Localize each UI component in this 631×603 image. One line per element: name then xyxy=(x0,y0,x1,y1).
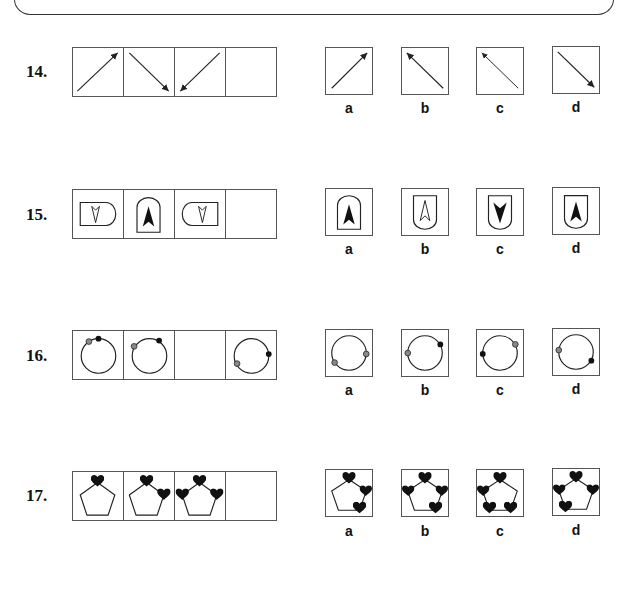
sequence-cell xyxy=(73,472,124,520)
arrow-down-right-icon xyxy=(553,47,599,93)
question-number: 17. xyxy=(26,486,47,506)
pentagon-hearts-icon xyxy=(326,470,372,516)
option-14-b[interactable] xyxy=(401,47,449,95)
option-15-b[interactable] xyxy=(401,188,449,236)
option-15-a[interactable] xyxy=(325,188,373,236)
shield-filled-arrow-up-icon xyxy=(124,190,174,238)
question-17-sequence xyxy=(72,471,277,521)
option-label: a xyxy=(325,241,373,257)
option-17-a[interactable] xyxy=(325,469,373,517)
circle-dots-icon xyxy=(477,330,523,376)
option-17-d[interactable] xyxy=(552,468,600,516)
answer-blank-cell[interactable] xyxy=(175,331,226,379)
option-label: d xyxy=(552,381,600,397)
option-label: a xyxy=(325,100,373,116)
circle-dots-icon xyxy=(124,331,174,379)
sequence-cell xyxy=(124,190,175,238)
pentagon-hearts-icon xyxy=(477,470,523,516)
sequence-cell xyxy=(73,331,124,379)
pentagon-hearts-icon xyxy=(553,469,599,515)
question-15-sequence xyxy=(72,189,277,239)
option-label: b xyxy=(401,241,449,257)
sequence-cell xyxy=(175,472,226,520)
option-label: a xyxy=(325,523,373,539)
option-label: d xyxy=(552,240,600,256)
option-label: d xyxy=(552,522,600,538)
pentagon-hearts-icon xyxy=(73,472,123,520)
option-label: c xyxy=(476,241,524,257)
shield-filled-arrow-down-icon xyxy=(477,189,523,235)
question-number: 16. xyxy=(26,346,47,366)
option-label: b xyxy=(401,100,449,116)
sequence-cell xyxy=(73,190,124,238)
option-17-c[interactable] xyxy=(476,469,524,517)
circle-dots-icon xyxy=(73,331,123,379)
arrow-down-right-icon xyxy=(124,48,174,96)
question-16-sequence xyxy=(72,330,277,380)
answer-blank-cell[interactable] xyxy=(226,472,276,520)
circle-dots-icon xyxy=(402,330,448,376)
circle-dots-icon xyxy=(226,331,276,379)
option-15-c[interactable] xyxy=(476,188,524,236)
circle-dots-icon xyxy=(553,329,599,375)
pentagon-hearts-icon xyxy=(402,470,448,516)
option-label: d xyxy=(552,99,600,115)
option-14-d[interactable] xyxy=(552,46,600,94)
arrow-down-left-icon xyxy=(175,48,225,96)
sequence-cell xyxy=(124,48,175,96)
question-number: 15. xyxy=(26,205,47,225)
arrow-up-left-icon xyxy=(477,48,523,94)
option-16-d[interactable] xyxy=(552,328,600,376)
header-frame xyxy=(14,0,614,15)
arrow-up-right-icon xyxy=(73,48,123,96)
sequence-cell xyxy=(175,48,226,96)
option-17-b[interactable] xyxy=(401,469,449,517)
arrow-up-right-icon xyxy=(326,48,372,94)
arrow-up-left-icon xyxy=(402,48,448,94)
option-16-b[interactable] xyxy=(401,329,449,377)
shield-outline-arrow-up-icon xyxy=(402,189,448,235)
circle-dots-icon xyxy=(326,330,372,376)
option-label: c xyxy=(476,523,524,539)
option-16-a[interactable] xyxy=(325,329,373,377)
shield-outline-arrow-down-icon xyxy=(175,190,225,238)
pentagon-hearts-icon xyxy=(124,472,174,520)
question-number: 14. xyxy=(26,62,47,82)
option-15-d[interactable] xyxy=(552,187,600,235)
option-label: c xyxy=(476,100,524,116)
question-14-sequence xyxy=(72,47,277,97)
sequence-cell xyxy=(124,331,175,379)
option-14-a[interactable] xyxy=(325,47,373,95)
sequence-cell xyxy=(226,331,276,379)
option-label: b xyxy=(401,523,449,539)
shield-outline-arrow-down-icon xyxy=(73,190,123,238)
option-label: b xyxy=(401,382,449,398)
option-label: a xyxy=(325,382,373,398)
shield-filled-arrow-up-icon xyxy=(326,189,372,235)
sequence-cell xyxy=(175,190,226,238)
sequence-cell xyxy=(124,472,175,520)
pentagon-hearts-icon xyxy=(175,472,225,520)
answer-blank-cell[interactable] xyxy=(226,48,276,96)
option-16-c[interactable] xyxy=(476,329,524,377)
shield-filled-arrow-up-icon xyxy=(553,188,599,234)
answer-blank-cell[interactable] xyxy=(226,190,276,238)
option-14-c[interactable] xyxy=(476,47,524,95)
option-label: c xyxy=(476,382,524,398)
sequence-cell xyxy=(73,48,124,96)
